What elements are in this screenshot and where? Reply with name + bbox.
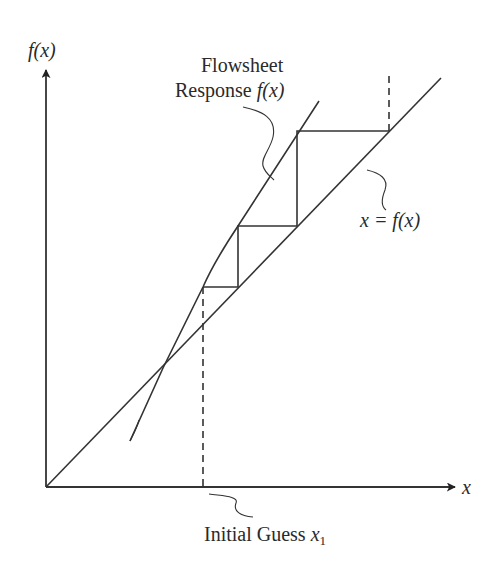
- flowsheet-label-line2: Response f(x): [175, 79, 285, 102]
- identity-leader-line: [367, 170, 386, 210]
- y-axis-label: f(x): [28, 39, 56, 62]
- initial-guess-prefix: Initial Guess: [204, 523, 311, 545]
- initial-guess-leader-line: [209, 494, 253, 517]
- initial-guess-sub: 1: [320, 533, 327, 548]
- initial-guess-label: Initial Guess x1: [204, 523, 326, 548]
- identity-line: [46, 78, 441, 487]
- x-axis-label: x: [461, 476, 471, 498]
- flowsheet-label-line1: Flowsheet: [201, 54, 284, 76]
- initial-guess-var: x: [310, 523, 320, 545]
- flowsheet-label-prefix: Response: [175, 79, 257, 102]
- identity-line-label: x = f(x): [359, 209, 420, 232]
- flowsheet-response-curve: [130, 101, 319, 441]
- flowsheet-leader-line: [243, 107, 274, 180]
- convergence-diagram: f(x) x Flowsheet Response f(x) x = f(x) …: [0, 0, 497, 569]
- flowsheet-label-func: f(x): [257, 79, 285, 102]
